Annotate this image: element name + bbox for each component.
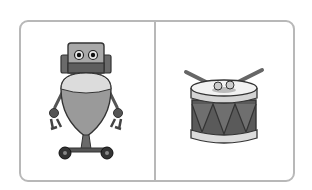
robot-icon xyxy=(41,41,131,166)
panel-drum[interactable] xyxy=(156,22,295,180)
drum-icon xyxy=(182,66,266,150)
picture-card-frame xyxy=(19,20,295,182)
panel-robot[interactable] xyxy=(21,22,154,180)
